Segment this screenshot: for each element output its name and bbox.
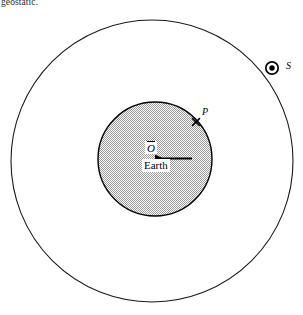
satellite-dot-icon bbox=[266, 62, 278, 74]
center-label: O bbox=[147, 141, 155, 154]
center-label-box: O bbox=[145, 141, 157, 154]
earth-label: Earth bbox=[142, 159, 170, 172]
satellite-label: S bbox=[286, 60, 291, 71]
figure-root: geostatic. S P bbox=[0, 0, 303, 315]
orbit-diagram-svg bbox=[0, 0, 303, 315]
point-p-label: P bbox=[202, 106, 208, 117]
